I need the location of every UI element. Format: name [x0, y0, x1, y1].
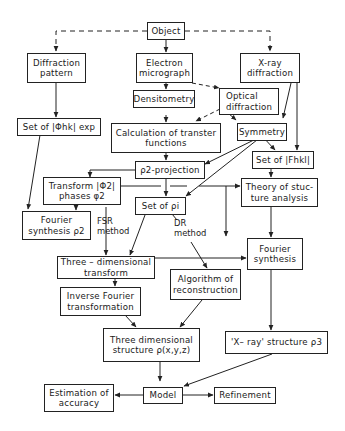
node-xray-structure: 'X– ray' structure ρ3	[225, 331, 328, 354]
node-label: Model	[150, 390, 177, 401]
node-optical-diffraction: Optical diffraction	[219, 88, 279, 115]
node-label: Set of ρi	[142, 201, 180, 212]
label-fsr-method: FSR method	[97, 216, 129, 236]
node-label: Fourier	[259, 244, 290, 255]
label-dr-method: DR method	[174, 218, 206, 238]
node-label: ture analysis	[251, 193, 309, 204]
edge-label: DR	[174, 218, 206, 228]
node-label: Estimation of	[49, 388, 108, 399]
edge-label: method	[174, 228, 206, 238]
node-label: diffraction	[247, 68, 293, 79]
node-theory-structure-analysis: Theory of stuc- ture analysis	[241, 178, 318, 207]
node-label: transform	[84, 268, 128, 279]
node-label: Algorithm of	[178, 274, 234, 285]
node-fourier-synthesis: Fourier synthesis	[247, 238, 303, 270]
node-label: Symmetry	[239, 127, 285, 138]
node-label: Refinement	[219, 390, 271, 401]
edge-label: FSR	[97, 216, 129, 226]
node-three-dimensional-transform: Three – dimensional transform	[57, 256, 155, 279]
node-label: Object	[151, 26, 180, 37]
node-symmetry: Symmetry	[237, 123, 287, 141]
node-label: Calculation of transter	[116, 128, 217, 139]
node-label: Diffraction	[33, 58, 80, 69]
node-label: synthesis ρ2	[28, 226, 85, 237]
node-label: Inverse Fourier	[67, 291, 134, 302]
node-label: micrograph	[139, 68, 190, 79]
node-calculation-transfer-functions: Calculation of transter functions	[111, 123, 221, 153]
node-label: Fourier	[41, 215, 72, 226]
node-label: reconstruction	[173, 285, 238, 296]
node-label: Three – dimensional	[61, 257, 151, 268]
node-densitometry: Densitometry	[133, 90, 195, 108]
node-refinement: Refinement	[214, 387, 276, 404]
node-label: phases φ2	[59, 191, 105, 202]
edge-label: method	[97, 226, 129, 236]
node-inverse-fourier-transformation: Inverse Fourier transformation	[60, 287, 141, 316]
node-label: functions	[145, 138, 186, 149]
node-label: Set of |Φhk| exp	[23, 122, 95, 133]
node-xray-diffraction: X-ray diffraction	[240, 53, 300, 83]
node-set-rho-i: Set of ρi	[135, 197, 186, 215]
node-label: Electron	[146, 58, 183, 69]
node-algorithm-reconstruction: Algorithm of reconstruction	[170, 269, 241, 300]
node-label: 'X– ray' structure ρ3	[231, 337, 322, 348]
node-electron-micrograph: Electron micrograph	[136, 53, 193, 83]
node-label: Densitometry	[134, 94, 195, 105]
node-diffraction-pattern: Diffraction pattern	[27, 53, 86, 83]
node-transform-phi2: Transform |Φ2| phases φ2	[43, 177, 121, 205]
node-label: Set of |Fhkl|	[256, 155, 310, 166]
node-estimation-accuracy: Estimation of accuracy	[44, 384, 114, 412]
node-label: Theory of stuc-	[246, 182, 314, 193]
node-fourier-synthesis-rho2: Fourier synthesis ρ2	[22, 211, 91, 240]
node-label: diffraction	[226, 102, 272, 113]
node-label: transformation	[67, 302, 134, 313]
node-label: accuracy	[59, 398, 99, 409]
node-model: Model	[143, 387, 183, 404]
node-label: pattern	[40, 68, 73, 79]
node-label: ρ2-projection	[140, 165, 200, 176]
node-set-phi-hk-exp: Set of |Φhk| exp	[17, 118, 101, 136]
node-object: Object	[147, 22, 185, 40]
node-label: synthesis	[254, 254, 296, 265]
node-label: Optical	[226, 91, 258, 102]
node-set-F-hkl: Set of |Fhkl|	[252, 151, 314, 169]
node-label: Three dimensional	[110, 335, 193, 346]
node-label: X-ray	[258, 58, 281, 69]
node-three-dimensional-structure: Three dimensional structure ρ(x,y,z)	[103, 328, 200, 362]
node-label: Transform |Φ2|	[49, 181, 115, 192]
node-label: structure ρ(x,y,z)	[113, 345, 191, 356]
node-rho2-projection: ρ2-projection	[135, 161, 205, 179]
